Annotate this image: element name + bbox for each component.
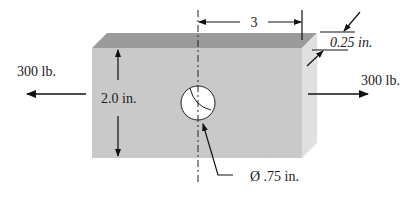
right-force: 300 lb. [308, 73, 400, 94]
left-force: 300 lb. [17, 64, 86, 94]
hole-diameter-label: Ø .75 in. [250, 169, 299, 184]
right-force-label: 300 lb. [361, 73, 400, 88]
plate-side-face [302, 33, 317, 158]
edge-distance-label: 3 [251, 15, 258, 30]
plate-top-face [92, 33, 317, 48]
thickness-arrow-top [344, 12, 360, 31]
thickness-label: 0.25 in. [330, 35, 372, 50]
plate-diagram: 3 0.25 in. 2.0 in. 300 lb. 300 lb. [0, 0, 415, 203]
diagram-canvas: 3 0.25 in. 2.0 in. 300 lb. 300 lb. [0, 0, 415, 203]
left-force-label: 300 lb. [17, 64, 56, 79]
height-label: 2.0 in. [101, 91, 136, 106]
